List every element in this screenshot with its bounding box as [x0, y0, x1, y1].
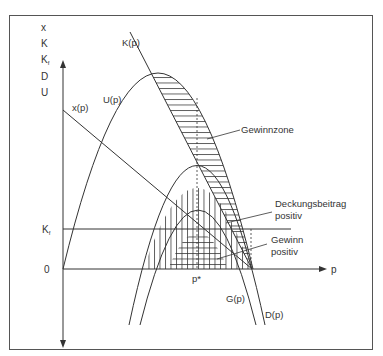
g-curve-label: G(p)	[226, 293, 245, 304]
diagram-canvas: x K Kf D U Kf 0 p* p K(p) U(p) x(p) G(p)…	[0, 0, 383, 356]
y-axis-down-arrow-icon	[60, 340, 66, 348]
y-axis-up-arrow-icon	[60, 60, 66, 68]
deckungsbeitrag-label-line2: positiv	[275, 210, 302, 221]
p-axis-arrow-icon	[319, 266, 327, 272]
d-curve-label: D(p)	[265, 309, 283, 320]
x-curve-label: x(p)	[72, 102, 88, 113]
gewinn-label-line1: Gewinn	[271, 234, 303, 245]
y-label-u: U	[41, 87, 48, 98]
gewinnzone-label: Gewinnzone	[241, 124, 294, 135]
p-axis-label: p	[331, 264, 337, 275]
y-label-x: x	[41, 22, 46, 33]
y-label-kf: Kf	[41, 54, 50, 66]
zero-tick-label: 0	[44, 264, 50, 275]
k-curve-label: K(p)	[122, 37, 140, 48]
y-label-k: K	[41, 38, 48, 49]
y-label-d: D	[41, 71, 48, 82]
deckungsbeitrag-label-line1: Deckungsbeitrag	[275, 198, 346, 209]
kf-tick-label: Kf	[42, 224, 51, 236]
p-star-label: p*	[192, 273, 201, 284]
gewinnzone-leader	[207, 130, 240, 139]
u-curve-label: U(p)	[103, 94, 121, 105]
gewinn-label-line2: positiv	[271, 246, 298, 257]
